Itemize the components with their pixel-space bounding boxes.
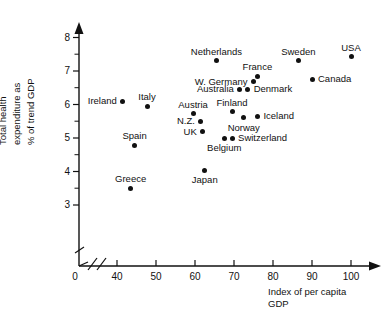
data-point-label: Austria	[178, 99, 208, 109]
y-axis-title-line-2: expenditure as	[11, 83, 22, 145]
data-point-label: Switzerland	[238, 133, 287, 143]
y-tick-label: 5	[52, 133, 70, 143]
data-point-label: USA	[341, 42, 361, 52]
origin-label: 0	[68, 272, 82, 282]
data-point-label: Italy	[138, 92, 155, 102]
data-point-label: Iceland	[263, 111, 294, 121]
data-point-label: Denmark	[254, 85, 293, 95]
data-point-label: N.Z.	[177, 117, 195, 127]
y-tick-label: 3	[52, 200, 70, 210]
plot-area: Total health expenditure as % of trend G…	[0, 0, 389, 317]
data-point[interactable]	[222, 136, 227, 141]
data-point[interactable]	[255, 114, 260, 119]
data-point-label: Sweden	[281, 46, 315, 56]
data-point-label: Norway	[228, 123, 260, 133]
y-axis-title-line-3: % of trend GDP	[25, 78, 36, 145]
x-tick-label: 40	[102, 272, 132, 282]
data-point[interactable]	[128, 186, 133, 191]
y-tick-label: 4	[52, 167, 70, 177]
data-point-label: W. Germany	[195, 77, 248, 87]
data-point-label: UK	[184, 127, 197, 137]
data-point-label: Finland	[216, 97, 247, 107]
data-point[interactable]	[310, 77, 315, 82]
x-tick-label: 100	[336, 272, 366, 282]
x-axis-title-line-1: Index of per capita	[268, 286, 386, 298]
data-point-label: Japan	[192, 175, 218, 185]
data-point-label: Netherlands	[191, 46, 242, 56]
data-point[interactable]	[132, 143, 137, 148]
data-point[interactable]	[255, 74, 260, 79]
data-point-label: Greece	[115, 174, 146, 184]
x-tick-label: 80	[258, 272, 288, 282]
scatter-plot-figure: Total health expenditure as % of trend G…	[0, 0, 389, 317]
x-tick-label: 60	[180, 272, 210, 282]
y-axis-title-line-1: Total health	[0, 96, 8, 145]
x-tick-label: 90	[297, 272, 327, 282]
data-point[interactable]	[145, 104, 150, 109]
y-tick-label: 7	[52, 66, 70, 76]
x-tick-label: 70	[219, 272, 249, 282]
y-tick-label: 6	[52, 100, 70, 110]
data-point-label: Spain	[122, 131, 146, 141]
data-point-label: France	[243, 62, 273, 72]
y-tick-label: 8	[52, 33, 70, 43]
data-point[interactable]	[230, 109, 235, 114]
data-point-label: Canada	[318, 75, 351, 85]
x-axis-title: Index of per capita GDP	[268, 286, 386, 311]
data-point-label: Ireland	[88, 96, 117, 106]
x-axis-title-line-2: GDP	[268, 298, 386, 310]
data-point[interactable]	[230, 136, 235, 141]
data-point-label: Belgium	[207, 143, 241, 153]
x-tick-label: 50	[141, 272, 171, 282]
